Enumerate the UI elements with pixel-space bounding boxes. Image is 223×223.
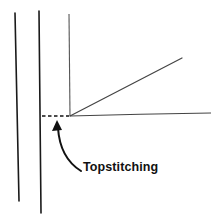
pleat-horizontal-line	[70, 113, 211, 116]
outer-fold-line	[15, 13, 19, 201]
seam-edge-line	[39, 11, 41, 213]
arrowhead-icon	[52, 120, 62, 131]
topstitching-label: Topstitching	[83, 160, 158, 174]
topstitching-arrow	[58, 128, 81, 171]
diagram-canvas: Topstitching	[0, 0, 223, 223]
pleat-diagonal-line	[70, 58, 182, 116]
diagram-drawing	[0, 0, 223, 223]
pleat-vertical-line	[69, 14, 70, 116]
